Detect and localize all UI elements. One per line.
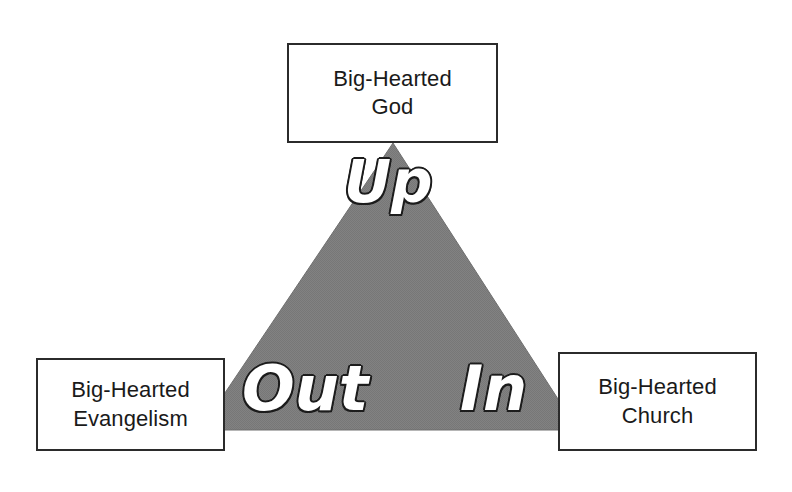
node-box-church: Big-Hearted Church — [558, 352, 757, 451]
edge-label-up: Up — [344, 153, 433, 211]
edge-label-up-text: Up — [344, 148, 433, 216]
node-label-god: Big-Hearted God — [333, 65, 452, 121]
edge-label-out-text: Out — [242, 352, 368, 425]
node-box-god: Big-Hearted God — [287, 43, 498, 143]
node-label-evangelism: Big-Hearted Evangelism — [71, 376, 190, 432]
node-label-church: Big-Hearted Church — [598, 373, 717, 429]
edge-label-in: In — [460, 358, 527, 420]
node-box-evangelism: Big-Hearted Evangelism — [36, 358, 225, 451]
edge-label-out: Out — [242, 358, 368, 420]
edge-label-in-text: In — [460, 352, 527, 425]
diagram-canvas: Up Out In Big-Hearted God Big-Hearted Ev… — [0, 0, 792, 492]
